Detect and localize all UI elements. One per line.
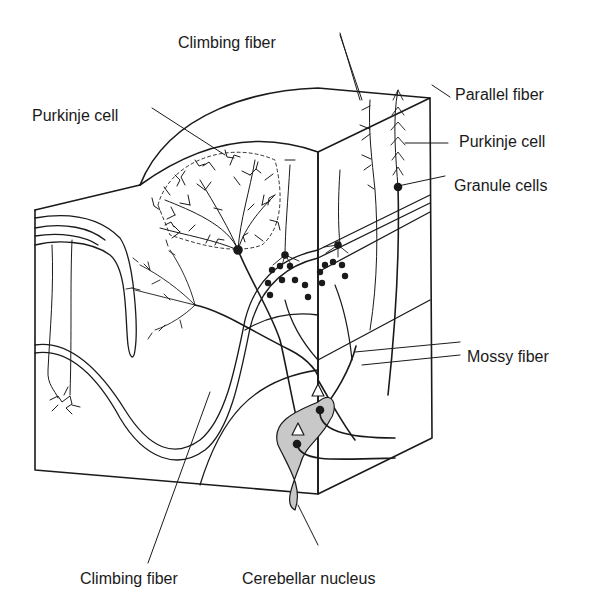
label-climbing-fiber-bottom: Climbing fiber — [80, 570, 178, 588]
label-purkinje-cell-left: Purkinje cell — [32, 107, 118, 125]
granule-cells — [265, 242, 352, 360]
purkinje-cells — [195, 90, 405, 425]
label-purkinje-cell-right: Purkinje cell — [459, 133, 545, 151]
basket-cell — [48, 240, 80, 414]
climbing-fiber-paths — [285, 33, 377, 330]
label-mossy-fiber: Mossy fiber — [467, 348, 549, 366]
cerebellar-nucleus — [277, 384, 395, 510]
label-cerebellar-nucleus: Cerebellar nucleus — [242, 570, 375, 588]
tissue-block-outline — [35, 88, 432, 494]
label-granule-cells: Granule cells — [454, 177, 547, 195]
label-parallel-fiber: Parallel fiber — [455, 86, 544, 104]
label-climbing-fiber-top: Climbing fiber — [178, 34, 276, 52]
